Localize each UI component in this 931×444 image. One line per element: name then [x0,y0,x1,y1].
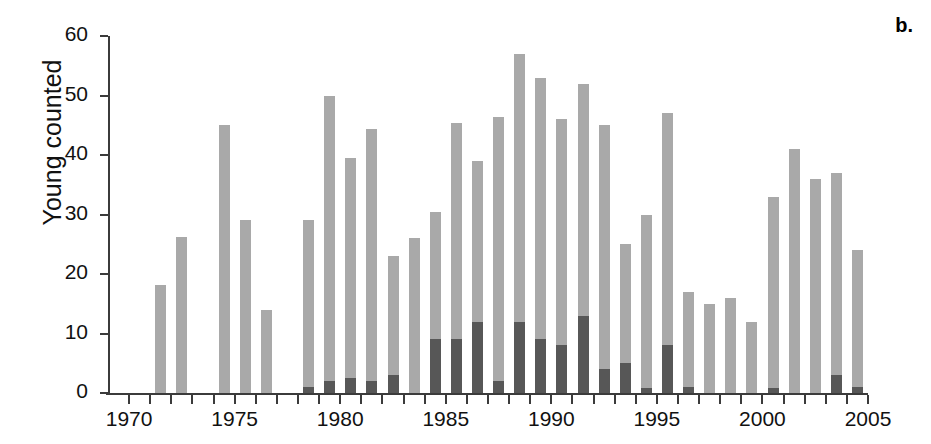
x-tick [128,395,130,404]
bar-total [683,292,694,393]
bar-subset [768,388,779,393]
x-tick [213,395,215,404]
y-tick-label: 20 [65,260,88,284]
y-tick-label: 10 [65,320,88,344]
x-tick-label: 1970 [106,407,153,431]
x-tick [677,395,679,404]
bar-total [810,179,821,393]
bar-total [176,237,187,393]
bar-subset [852,387,863,393]
y-axis-title: Young counted [38,13,67,273]
x-tick [550,395,552,404]
x-tick-label: 1985 [422,407,469,431]
bar-total [324,96,335,394]
x-tick [255,395,257,404]
bar-subset [388,375,399,393]
x-tick [761,395,763,404]
bar-subset [472,322,483,393]
bar-subset [556,345,567,393]
bar-subset [493,381,504,393]
x-tick-label: 1975 [211,407,258,431]
bar-total [852,250,863,393]
x-tick [698,395,700,404]
x-tick [719,395,721,404]
bar-total [303,220,314,393]
bar-total [704,304,715,393]
bar-subset [831,375,842,393]
y-tick: 60 [100,35,108,37]
x-tick [149,395,151,404]
y-tick-label: 60 [65,22,88,46]
x-tick [445,395,447,404]
bar-subset [620,363,631,393]
bar-total [641,215,652,394]
x-tick [740,395,742,404]
x-tick-label: 1995 [634,407,681,431]
x-tick [339,395,341,404]
bar-total [261,310,272,393]
bar-total [219,125,230,393]
x-tick [318,395,320,404]
bar-subset [451,339,462,393]
x-tick [276,395,278,404]
x-tick [191,395,193,404]
bar-subset [303,387,314,393]
bar-total [831,173,842,393]
bar-total [240,220,251,393]
y-tick: 30 [100,214,108,216]
x-tick [234,395,236,404]
x-tick-label: 1980 [317,407,364,431]
bar-subset [535,339,546,393]
bar-total [366,129,377,393]
x-tick [867,395,869,404]
plot-area: 0102030405060 19701975198019851990199520… [108,36,868,393]
bar-subset [345,378,356,393]
panel-label: b. [895,14,913,37]
x-tick [846,395,848,404]
x-tick [656,395,658,404]
y-axis-line [108,36,110,394]
bar-total [789,149,800,393]
bar-total [345,158,356,393]
bar-subset [430,339,441,393]
x-tick [783,395,785,404]
bar-total [493,117,504,393]
x-tick [424,395,426,404]
bar-total [409,238,420,393]
bar-subset [599,369,610,393]
bar-total [599,125,610,393]
y-tick: 10 [100,333,108,335]
x-tick [804,395,806,404]
y-tick: 40 [100,154,108,156]
bar-subset [641,388,652,393]
x-tick [381,395,383,404]
x-tick [571,395,573,404]
x-tick [487,395,489,404]
y-tick-label: 40 [65,141,88,165]
x-tick [635,395,637,404]
bar-total [768,197,779,393]
bar-subset [514,322,525,393]
bar-subset [683,387,694,393]
bar-subset [662,345,673,393]
x-tick [360,395,362,404]
y-tick: 20 [100,273,108,275]
bar-total [388,256,399,393]
bar-subset [324,381,335,393]
y-tick-label: 30 [65,201,88,225]
x-tick [170,395,172,404]
x-tick [297,395,299,404]
bar-subset [366,381,377,393]
x-tick-label: 2000 [739,407,786,431]
y-tick: 0 [100,392,108,394]
x-tick [403,395,405,404]
x-tick [593,395,595,404]
x-tick [508,395,510,404]
x-tick-label: 1990 [528,407,575,431]
chart-figure: b. Young counted 0102030405060 197019751… [0,0,931,444]
bar-subset [578,316,589,393]
y-tick-label: 0 [76,379,88,403]
x-tick-label: 2005 [845,407,892,431]
x-tick [825,395,827,404]
bar-total [746,322,757,393]
